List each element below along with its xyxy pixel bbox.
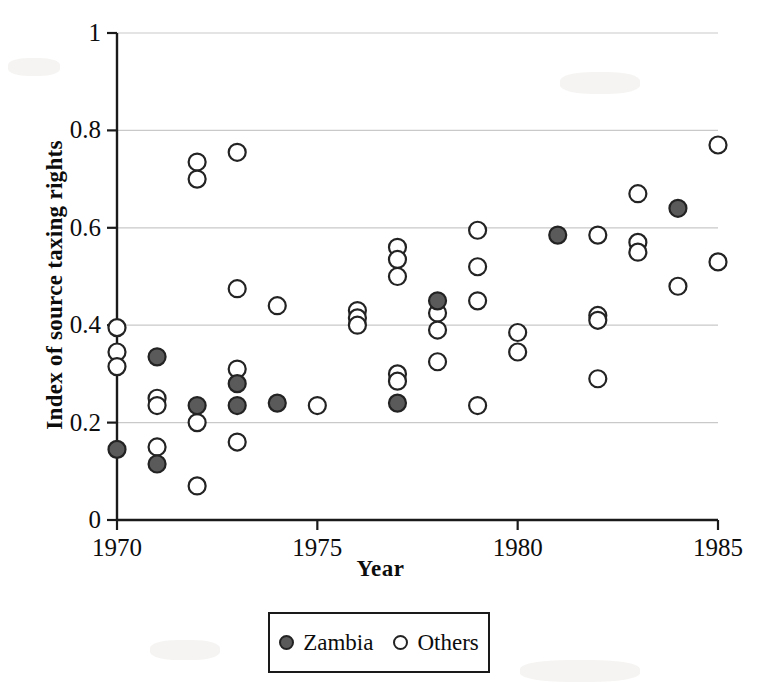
data-point-others: [710, 137, 727, 154]
data-point-others: [189, 414, 206, 431]
data-point-others: [389, 251, 406, 268]
data-point-others: [469, 292, 486, 309]
data-point-zambia: [149, 455, 166, 472]
data-point-others: [229, 144, 246, 161]
data-point-zambia: [229, 397, 246, 414]
data-point-others: [509, 324, 526, 341]
data-point-others: [189, 154, 206, 171]
plot-canvas: [0, 0, 761, 696]
data-point-others: [389, 268, 406, 285]
y-axis-tick-label: 0: [0, 507, 101, 532]
data-point-others: [669, 278, 686, 295]
data-point-others: [309, 397, 326, 414]
data-point-others: [389, 373, 406, 390]
data-point-zambia: [389, 395, 406, 412]
legend-entry-zambia: Zambia: [279, 631, 373, 654]
y-axis-title: Index of source taxing rights: [42, 75, 68, 495]
data-point-zambia: [429, 292, 446, 309]
data-point-others: [589, 370, 606, 387]
data-point-others: [149, 397, 166, 414]
data-point-others: [629, 185, 646, 202]
data-point-others: [269, 297, 286, 314]
data-point-others: [189, 171, 206, 188]
data-point-zambia: [549, 227, 566, 244]
data-point-others: [349, 317, 366, 334]
y-axis-tick-label: 1: [0, 20, 101, 45]
legend-entry-others: Others: [393, 631, 478, 654]
x-axis-title: Year: [0, 556, 761, 582]
data-point-others: [469, 258, 486, 275]
data-point-zambia: [269, 395, 286, 412]
data-point-zambia: [229, 375, 246, 392]
gridlines: [117, 33, 718, 423]
data-point-zambia: [149, 348, 166, 365]
data-point-others: [229, 280, 246, 297]
data-point-others: [710, 253, 727, 270]
data-point-others: [429, 322, 446, 339]
data-point-others: [509, 343, 526, 360]
data-point-others: [109, 358, 126, 375]
data-point-zambia: [189, 397, 206, 414]
axis-lines: [117, 33, 718, 520]
legend-label: Zambia: [303, 631, 373, 654]
open-circle-icon: [393, 635, 408, 650]
data-point-others: [229, 434, 246, 451]
data-point-zambia: [109, 441, 126, 458]
data-point-zambia: [669, 200, 686, 217]
filled-circle-icon: [279, 635, 294, 650]
data-point-others: [469, 397, 486, 414]
data-point-others: [189, 477, 206, 494]
legend-label: Others: [417, 631, 478, 654]
data-point-others: [429, 353, 446, 370]
data-point-others: [629, 244, 646, 261]
data-point-others: [589, 312, 606, 329]
data-point-others: [469, 222, 486, 239]
data-point-others: [149, 438, 166, 455]
series-others-markers: [109, 137, 727, 495]
x-axis-ticks: [117, 520, 718, 530]
chart-legend: ZambiaOthers: [268, 612, 490, 673]
scatter-chart-figure: 00.20.40.60.81 1970197519801985 Year Ind…: [0, 0, 761, 696]
data-point-others: [589, 227, 606, 244]
data-point-others: [109, 319, 126, 336]
